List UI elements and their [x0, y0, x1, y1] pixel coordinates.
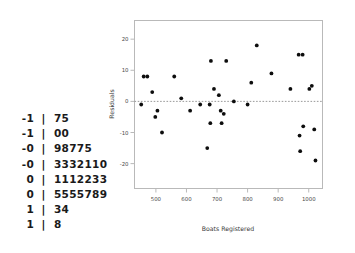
data-point — [172, 75, 176, 79]
leaf-values: 1112233 — [48, 173, 107, 185]
y-axis-tick-label: 0 — [125, 98, 129, 104]
stem-value: 0 — [0, 173, 39, 185]
data-point — [139, 103, 143, 107]
data-point — [145, 75, 149, 79]
data-point — [298, 149, 302, 153]
data-point — [179, 96, 183, 100]
y-axis-tick-label: 20 — [122, 36, 129, 42]
x-axis-title: Boats Registered — [202, 225, 255, 233]
data-points-group — [139, 43, 317, 162]
y-axis-tick-label: 10 — [122, 67, 129, 73]
leaf-values: 34 — [48, 203, 69, 215]
x-axis-tick-label: 700 — [212, 196, 223, 202]
plot-frame — [135, 21, 323, 189]
stem-value: -1 — [0, 112, 39, 124]
x-axis-tick-label: 500 — [151, 196, 162, 202]
data-point — [153, 115, 157, 119]
leaf-values: 98775 — [48, 142, 92, 154]
data-point — [150, 90, 154, 94]
data-point — [160, 131, 164, 135]
data-point — [298, 134, 302, 138]
data-point — [310, 84, 314, 88]
leaf-values: 5555789 — [48, 188, 107, 200]
data-point — [314, 159, 318, 163]
data-point — [198, 103, 202, 107]
stem-leaf-separator: | — [39, 203, 48, 215]
data-point — [205, 146, 209, 150]
data-point — [301, 124, 305, 128]
stem-leaf-separator: | — [39, 188, 48, 200]
stem-value: -0 — [0, 142, 39, 154]
data-point — [188, 109, 192, 113]
data-point — [212, 87, 216, 91]
stem-leaf-separator: | — [39, 173, 48, 185]
stem-value: -1 — [0, 127, 39, 139]
stem-value: 0 — [0, 188, 39, 200]
data-point — [249, 81, 253, 85]
stem-leaf-separator: | — [39, 142, 48, 154]
leaf-values: 8 — [48, 218, 62, 230]
stem-value: -0 — [0, 158, 39, 170]
y-axis-tick-label: -10 — [120, 130, 129, 136]
data-point — [297, 53, 301, 57]
data-point — [246, 103, 250, 107]
stem-leaf-separator: | — [39, 158, 48, 170]
y-axis-tick-label: -20 — [120, 161, 129, 167]
leaf-values: 00 — [48, 127, 69, 139]
stem-leaf-separator: | — [39, 127, 48, 139]
data-point — [208, 103, 212, 107]
stem-value: 1 — [0, 203, 39, 215]
data-point — [209, 59, 213, 63]
leaf-values: 75 — [48, 112, 69, 124]
data-point — [301, 53, 305, 57]
data-point — [219, 109, 223, 113]
data-point — [222, 112, 226, 116]
axis-ticks-group: 5006007008009001000-20-1001020 — [120, 36, 316, 201]
scatter-plot-svg: 5006007008009001000-20-1001020 Boats Reg… — [100, 0, 355, 253]
x-axis-tick-label: 1000 — [302, 196, 316, 202]
data-point — [220, 121, 224, 125]
residual-scatter-plot: 5006007008009001000-20-1001020 Boats Reg… — [100, 0, 355, 253]
data-point — [217, 93, 221, 97]
leaf-values: 3332110 — [48, 158, 107, 170]
data-point — [307, 87, 311, 91]
data-point — [255, 43, 259, 47]
data-point — [312, 127, 316, 131]
data-point — [142, 75, 146, 79]
data-point — [208, 121, 212, 125]
stem-value: 1 — [0, 218, 39, 230]
y-axis-title: Residuals — [108, 89, 115, 118]
data-point — [156, 109, 160, 113]
data-point — [232, 99, 236, 103]
x-axis-tick-label: 600 — [181, 196, 192, 202]
x-axis-tick-label: 900 — [273, 196, 284, 202]
x-axis-tick-label: 800 — [242, 196, 253, 202]
stem-leaf-separator: | — [39, 112, 48, 124]
stem-leaf-separator: | — [39, 218, 48, 230]
data-point — [289, 87, 293, 91]
data-point — [270, 71, 274, 75]
data-point — [224, 59, 228, 63]
